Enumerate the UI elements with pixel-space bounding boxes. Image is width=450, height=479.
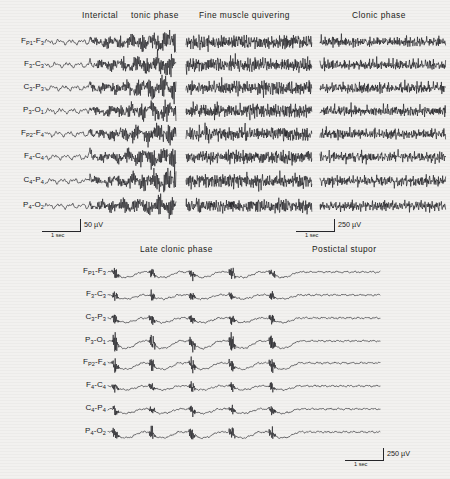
panel-title-fine-muscle-quivering: Fine muscle quivering — [199, 10, 290, 20]
trace-late-clonic-postictal-f4-c4 — [108, 381, 380, 392]
trace-interictal-tonic-fp2-f4 — [45, 123, 176, 148]
panel-title-clonic-phase: Clonic phase — [352, 10, 406, 20]
panel-title-late-clonic-phase: Late clonic phase — [140, 244, 213, 254]
trace-clonic-phase-p4-o2 — [320, 200, 446, 213]
trace-interictal-tonic-fp1-f3 — [45, 30, 176, 52]
channel-label-top-f4-c4: F4-C4 — [2, 151, 44, 161]
scalebar-amplitude-line — [383, 448, 384, 461]
scalebar-top-left: 50 µV 1 sec — [42, 219, 102, 241]
scalebar-amplitude-line — [80, 219, 81, 232]
trace-fine-muscle-quivering-fp2-f4 — [186, 123, 312, 144]
trace-clonic-phase-fp1-f3 — [320, 34, 446, 48]
eeg-figure: Interictal tonic phase Fine muscle quive… — [0, 0, 450, 479]
scalebar-amplitude-line — [334, 219, 335, 232]
trace-clonic-phase-f4-c4 — [320, 149, 446, 164]
scalebar-amplitude-label: 250 µV — [338, 220, 361, 229]
channel-label-top-p3-o1: P3-O1 — [2, 105, 44, 115]
trace-late-clonic-postictal-f3-c3 — [108, 290, 380, 301]
trace-fine-muscle-quivering-c4-p4 — [186, 171, 312, 192]
trace-fine-muscle-quivering-f4-c4 — [186, 150, 312, 166]
scalebar-amplitude-label: 50 µV — [84, 220, 103, 229]
channel-label-top-f3-c3: F3-C3 — [2, 59, 44, 69]
trace-interictal-tonic-p4-o2 — [45, 194, 176, 219]
channel-label-bottom-p4-o2: P4-O2 — [64, 426, 106, 436]
trace-fine-muscle-quivering-f3-c3 — [186, 53, 312, 74]
trace-clonic-phase-c4-p4 — [320, 174, 446, 188]
channel-label-bottom-p3-o1: P3-O1 — [64, 335, 106, 345]
channel-label-top-fp1-f3: FP1-F3 — [2, 36, 44, 46]
channel-label-bottom-f3-c3: F3-C3 — [64, 289, 106, 299]
trace-clonic-phase-f3-c3 — [320, 56, 446, 71]
scalebar-amplitude-label: 250 µV — [387, 449, 410, 458]
channel-label-bottom-f4-c4: F4-C4 — [64, 380, 106, 390]
trace-late-clonic-postictal-p3-o1 — [108, 332, 380, 352]
trace-interictal-tonic-f3-c3 — [45, 49, 176, 77]
trace-late-clonic-postictal-fp2-f4 — [108, 357, 380, 374]
trace-clonic-phase-p3-o1 — [320, 102, 446, 117]
trace-fine-muscle-quivering-p4-o2 — [186, 198, 312, 215]
panel-title-postictal-stupor: Postictal stupor — [312, 244, 376, 254]
scalebar-bottom: 250 µV 1 sec — [345, 448, 420, 470]
channel-label-top-c3-p3: C3-P3 — [2, 82, 44, 92]
channel-label-bottom-fp1-f3: FP1-F3 — [64, 266, 106, 276]
scalebar-time-label: 1 sec — [354, 461, 367, 467]
trace-fine-muscle-quivering-fp1-f3 — [186, 35, 312, 52]
channel-label-bottom-c4-p4: C4-P4 — [64, 403, 106, 413]
channel-label-top-c4-p4: C4-P4 — [2, 175, 44, 185]
trace-late-clonic-postictal-c3-p3 — [108, 315, 380, 325]
scalebar-time-label: 1 sec — [51, 232, 64, 238]
trace-late-clonic-postictal-fp1-f3 — [108, 268, 380, 281]
panel-title-tonic-phase: tonic phase — [131, 10, 179, 20]
trace-clonic-phase-c3-p3 — [320, 80, 446, 94]
trace-interictal-tonic-c4-p4 — [45, 168, 176, 192]
panel-title-interictal: Interictal — [82, 10, 118, 20]
scalebar-time-label: 1 sec — [305, 232, 318, 238]
trace-clonic-phase-fp2-f4 — [320, 126, 446, 140]
trace-interictal-tonic-f4-c4 — [45, 148, 176, 174]
trace-interictal-tonic-c3-p3 — [45, 75, 176, 104]
channel-label-bottom-c3-p3: C3-P3 — [64, 312, 106, 322]
trace-interictal-tonic-p3-o1 — [45, 100, 176, 122]
channel-label-bottom-fp2-f4: FP2-F4 — [64, 357, 106, 367]
scalebar-top-right: 250 µV 1 sec — [296, 219, 366, 241]
trace-fine-muscle-quivering-p3-o1 — [186, 102, 312, 121]
channel-label-top-fp2-f4: FP2-F4 — [2, 128, 44, 138]
channel-label-top-p4-o2: P4-O2 — [2, 200, 44, 210]
trace-late-clonic-postictal-p4-o2 — [108, 426, 380, 440]
trace-late-clonic-postictal-c4-p4 — [108, 405, 380, 417]
trace-fine-muscle-quivering-c3-p3 — [186, 77, 312, 97]
